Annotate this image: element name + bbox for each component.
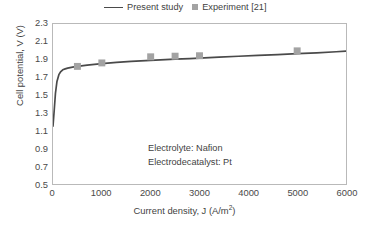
y-axis-title: Cell potential, V (V)	[14, 1, 25, 131]
legend-square-swatch-icon	[192, 4, 198, 10]
plot-annotations: Electrolyte: Nafion Electrodecatalyst: P…	[148, 141, 232, 169]
data-point-marker	[74, 63, 81, 70]
x-tick-label: 0	[49, 188, 54, 197]
x-tick-label: 5000	[287, 188, 308, 197]
x-axis-title-suffix: )	[232, 205, 235, 216]
x-axis-title: Current density, J (A/m2)	[0, 204, 369, 216]
x-axis-title-base: Current density, J (A/m	[134, 205, 229, 216]
plot-area: Electrolyte: Nafion Electrodecatalyst: P…	[52, 23, 347, 185]
y-tick-label: 0.7	[20, 162, 48, 171]
chart-legend: Present study Experiment [21]	[104, 2, 267, 12]
legend-item-present-study: Present study	[104, 2, 183, 12]
legend-line-swatch-icon	[104, 7, 123, 8]
annotation-electrolyte: Electrolyte: Nafion	[148, 141, 232, 155]
legend-label-present-study: Present study	[127, 2, 183, 12]
x-tick-label: 2000	[140, 188, 161, 197]
x-tick-label: 3000	[189, 188, 210, 197]
annotation-electrocatalyst: Electrodecatalyst: Pt	[148, 155, 232, 169]
x-tick-label: 4000	[238, 188, 259, 197]
data-point-marker	[172, 53, 179, 60]
data-point-marker	[196, 52, 203, 59]
legend-item-experiment: Experiment [21]	[192, 2, 266, 12]
data-point-marker	[98, 59, 105, 66]
x-tick-label: 1000	[91, 188, 112, 197]
y-tick-label: 0.9	[20, 144, 48, 153]
chart-figure: Present study Experiment [21] 0.50.70.91…	[0, 0, 369, 226]
x-axis-tick-labels: 0100020003000400050006000	[0, 188, 369, 202]
legend-label-experiment: Experiment [21]	[202, 2, 266, 12]
data-point-marker	[294, 47, 301, 54]
x-tick-label: 6000	[337, 188, 358, 197]
series-line-present-study	[53, 51, 346, 126]
data-point-marker	[147, 53, 154, 60]
